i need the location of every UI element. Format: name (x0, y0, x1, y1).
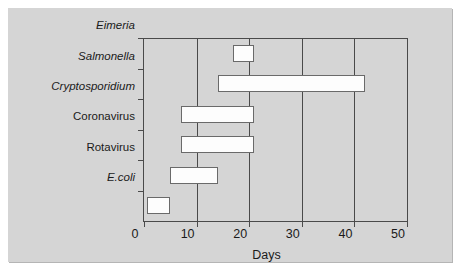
x-tick-label-50: 50 (378, 227, 418, 241)
bar-eimeria (233, 45, 254, 62)
gridline-10 (197, 38, 198, 221)
category-label-rotavirus: Rotavirus (5, 141, 135, 153)
category-label-eimeria: Eimeria (5, 19, 135, 31)
gridline-30 (302, 38, 303, 221)
gridline-40 (354, 38, 355, 221)
gridline-20 (249, 38, 250, 221)
y-tick-4 (138, 160, 144, 161)
category-label-ecoli: E.coli (5, 171, 135, 183)
category-label-cryptosporidium: Cryptosporidium (5, 80, 135, 92)
plot-right-rule (407, 38, 408, 221)
x-tick-label-10: 10 (168, 227, 208, 241)
x-tick-label-30: 30 (273, 227, 313, 241)
y-tick-5 (138, 191, 144, 192)
plot-top-rule (144, 38, 407, 39)
y-tick-2 (138, 99, 144, 100)
x-tick-label-0: 0 (115, 227, 155, 241)
y-tick-0 (138, 38, 144, 39)
bar-cryptosporidium (181, 106, 255, 123)
figure: Eimeria Salmonella Cryptosporidium Coron… (0, 0, 460, 280)
category-label-coronavirus: Coronavirus (5, 110, 135, 122)
x-tick-label-20: 20 (220, 227, 260, 241)
bar-rotavirus (170, 167, 217, 184)
y-tick-3 (138, 130, 144, 131)
category-label-salmonella: Salmonella (5, 50, 135, 62)
chart-panel: Eimeria Salmonella Cryptosporidium Coron… (8, 8, 452, 262)
bar-salmonella (218, 75, 365, 92)
y-tick-1 (138, 69, 144, 70)
plot-area (143, 38, 407, 222)
bar-coronavirus (181, 136, 255, 153)
x-tick-label-40: 40 (325, 227, 365, 241)
bar-ecoli (147, 197, 171, 214)
x-axis-title: Days (135, 248, 398, 262)
